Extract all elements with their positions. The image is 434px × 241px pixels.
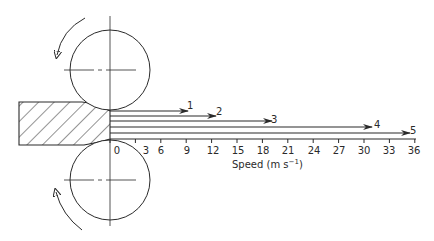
arrow-label-3: 3 — [271, 114, 277, 125]
axis-tick-labels: 0 3 6 9 12 15 18 21 24 27 30 33 36 — [114, 145, 421, 156]
tick-label: 36 — [408, 145, 421, 156]
axis-title: Speed (m s−1) — [232, 158, 303, 170]
tick-label: 3 — [143, 145, 149, 156]
arrow-label-4: 4 — [374, 119, 380, 130]
tick-label: 0 — [114, 145, 120, 156]
tick-label: 24 — [308, 145, 321, 156]
tick-label: 12 — [207, 145, 220, 156]
arrow-label-5: 5 — [410, 125, 416, 136]
workpiece — [19, 102, 110, 145]
tick-label: 30 — [358, 145, 371, 156]
tick-label: 27 — [333, 145, 346, 156]
tick-label: 21 — [282, 145, 295, 156]
tick-label: 18 — [257, 145, 270, 156]
tick-label: 15 — [232, 145, 245, 156]
speed-arrows: 1 2 3 4 5 — [110, 100, 416, 136]
upper-roll — [64, 16, 156, 111]
rolling-diagram: 1 2 3 4 5 0 3 6 9 12 15 — [0, 0, 434, 241]
axis-ticks — [110, 139, 415, 143]
speed-axis: 0 3 6 9 12 15 18 21 24 27 30 33 36 Speed… — [110, 139, 420, 170]
tick-label: 6 — [158, 145, 164, 156]
tick-label: 33 — [383, 145, 396, 156]
tick-label: 9 — [184, 145, 190, 156]
arrow-label-1: 1 — [187, 100, 193, 111]
arrow-label-2: 2 — [216, 106, 222, 117]
